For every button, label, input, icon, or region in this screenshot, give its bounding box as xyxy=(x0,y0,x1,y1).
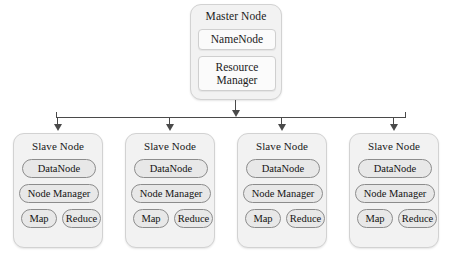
slave-node-card: Slave Node DataNode Node Manager Map Red… xyxy=(125,133,215,248)
map-pill: Map xyxy=(133,209,169,228)
diagram-canvas: Master Node NameNode Resource Manager Sl… xyxy=(0,0,463,257)
datanode-pill: DataNode xyxy=(246,159,320,178)
map-label: Map xyxy=(365,213,384,224)
node-manager-label: Node Manager xyxy=(28,188,91,199)
connector-distribution-bus xyxy=(56,117,406,118)
map-label: Map xyxy=(29,213,48,224)
datanode-pill: DataNode xyxy=(358,159,432,178)
namenode-box: NameNode xyxy=(198,29,276,50)
namenode-label: NameNode xyxy=(211,33,263,46)
map-pill: Map xyxy=(357,209,393,228)
datanode-pill: DataNode xyxy=(22,159,96,178)
arrowhead-slave-4-icon xyxy=(390,124,398,131)
resource-manager-label: Resource Manager xyxy=(199,61,275,87)
slave-node-label: Slave Node xyxy=(238,140,326,152)
map-pill: Map xyxy=(21,209,57,228)
map-pill: Map xyxy=(245,209,281,228)
master-node-card: Master Node NameNode Resource Manager xyxy=(190,4,282,100)
reduce-pill: Reduce xyxy=(174,209,213,228)
slave-node-card: Slave Node DataNode Node Manager Map Red… xyxy=(349,133,439,248)
reduce-label: Reduce xyxy=(66,213,98,224)
node-manager-label: Node Manager xyxy=(140,188,203,199)
slave-node-label: Slave Node xyxy=(350,140,438,152)
reduce-pill: Reduce xyxy=(286,209,325,228)
arrowhead-slave-2-icon xyxy=(166,124,174,131)
node-manager-pill: Node Manager xyxy=(355,184,435,203)
slave-node-card: Slave Node DataNode Node Manager Map Red… xyxy=(237,133,327,248)
datanode-label: DataNode xyxy=(374,163,417,174)
reduce-label: Reduce xyxy=(290,213,322,224)
datanode-label: DataNode xyxy=(150,163,193,174)
node-manager-pill: Node Manager xyxy=(243,184,323,203)
resource-manager-box: Resource Manager xyxy=(198,56,276,91)
map-label: Map xyxy=(253,213,272,224)
map-label: Map xyxy=(141,213,160,224)
master-node-label: Master Node xyxy=(191,10,281,22)
datanode-pill: DataNode xyxy=(134,159,208,178)
datanode-label: DataNode xyxy=(38,163,81,174)
node-manager-label: Node Manager xyxy=(252,188,315,199)
slave-node-label: Slave Node xyxy=(14,140,102,152)
slave-node-card: Slave Node DataNode Node Manager Map Red… xyxy=(13,133,103,248)
node-manager-pill: Node Manager xyxy=(131,184,211,203)
slave-node-label: Slave Node xyxy=(126,140,214,152)
datanode-label: DataNode xyxy=(262,163,305,174)
reduce-label: Reduce xyxy=(178,213,210,224)
reduce-label: Reduce xyxy=(402,213,434,224)
arrowhead-slave-3-icon xyxy=(278,124,286,131)
node-manager-pill: Node Manager xyxy=(19,184,99,203)
node-manager-label: Node Manager xyxy=(364,188,427,199)
reduce-pill: Reduce xyxy=(398,209,437,228)
reduce-pill: Reduce xyxy=(62,209,101,228)
arrowhead-slave-1-icon xyxy=(54,124,62,131)
